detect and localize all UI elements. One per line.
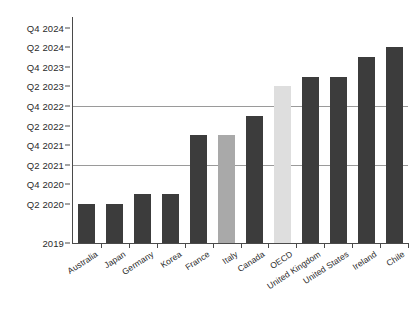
y-axis-tick-mark — [65, 203, 70, 204]
x-axis-tick-mark — [268, 244, 269, 248]
y-axis-tick-mark — [65, 106, 70, 107]
y-axis-tick-mark — [65, 145, 70, 146]
bar-united-states[interactable] — [330, 77, 347, 243]
x-axis-label-text: Korea — [158, 249, 183, 270]
x-axis-label-text: Canada — [236, 249, 267, 274]
y-axis-tick-label: Q4 2023 — [27, 61, 64, 72]
y-axis-tick-label: Q2 2024 — [27, 42, 64, 53]
bar-korea[interactable] — [162, 194, 179, 243]
bar-oecd[interactable] — [274, 86, 291, 243]
bar-canada[interactable] — [246, 116, 263, 243]
y-axis-tick-mark — [65, 243, 70, 244]
x-axis-label-france: France — [183, 249, 211, 272]
y-axis-tick-label: Q2 2021 — [27, 159, 64, 170]
y-axis-tick-mark — [65, 86, 70, 87]
x-axis-tick-mark — [324, 244, 325, 248]
x-axis-label-korea: Korea — [158, 249, 183, 270]
x-axis-tick-mark — [185, 244, 186, 248]
y-axis-tick-mark — [65, 164, 70, 165]
bar-germany[interactable] — [134, 194, 151, 243]
x-axis-label-text: Australia — [65, 249, 99, 276]
x-axis-label-ireland: Ireland — [351, 249, 379, 272]
x-axis-label-chile: Chile — [384, 249, 406, 268]
x-axis-tick-mark — [408, 244, 409, 248]
bar-ireland[interactable] — [358, 57, 375, 243]
x-axis-tick-mark — [129, 244, 130, 248]
x-axis-label-australia: Australia — [65, 249, 99, 276]
x-axis-label-text: Chile — [384, 249, 406, 268]
y-axis-tick-label: Q4 2022 — [27, 101, 64, 112]
x-axis-label-text: Ireland — [351, 249, 379, 272]
x-axis-tick-mark — [213, 244, 214, 248]
x-axis-tick-mark — [380, 244, 381, 248]
x-axis-tick-mark — [296, 244, 297, 248]
x-axis-tick-mark — [241, 244, 242, 248]
bar-italy[interactable] — [218, 135, 235, 243]
y-axis-tick-mark — [65, 66, 70, 67]
bar-chile[interactable] — [386, 47, 403, 243]
bar-australia[interactable] — [78, 204, 95, 243]
y-axis-tick-mark — [65, 27, 70, 28]
y-axis-tick-label: 2019 — [42, 238, 64, 249]
y-axis-tick-mark — [65, 184, 70, 185]
y-axis-tick-label: Q2 2022 — [27, 120, 64, 131]
y-axis-tick-label: Q4 2021 — [27, 140, 64, 151]
plot-area — [73, 18, 408, 243]
x-axis-tick-mark — [157, 244, 158, 248]
x-axis-label-text: France — [183, 249, 211, 272]
y-axis-tick-label: Q4 2020 — [27, 179, 64, 190]
y-axis-tick-label: Q4 2024 — [27, 22, 64, 33]
x-axis-tick-mark — [101, 244, 102, 248]
x-axis-label-canada: Canada — [236, 249, 267, 274]
y-axis-tick-label: Q2 2023 — [27, 81, 64, 92]
bar-chart: Q4 2024 Q2 2024 Q4 2023 Q2 2023 Q4 2022 … — [0, 0, 417, 322]
y-axis: Q4 2024 Q2 2024 Q4 2023 Q2 2023 Q4 2022 … — [0, 0, 64, 322]
bar-japan[interactable] — [106, 204, 123, 243]
y-axis-tick-mark — [65, 47, 70, 48]
y-axis-tick-mark — [65, 125, 70, 126]
bar-france[interactable] — [190, 135, 207, 243]
y-axis-tick-label: Q2 2020 — [27, 198, 64, 209]
x-axis-tick-mark — [352, 244, 353, 248]
bar-united-kingdom[interactable] — [302, 77, 319, 243]
